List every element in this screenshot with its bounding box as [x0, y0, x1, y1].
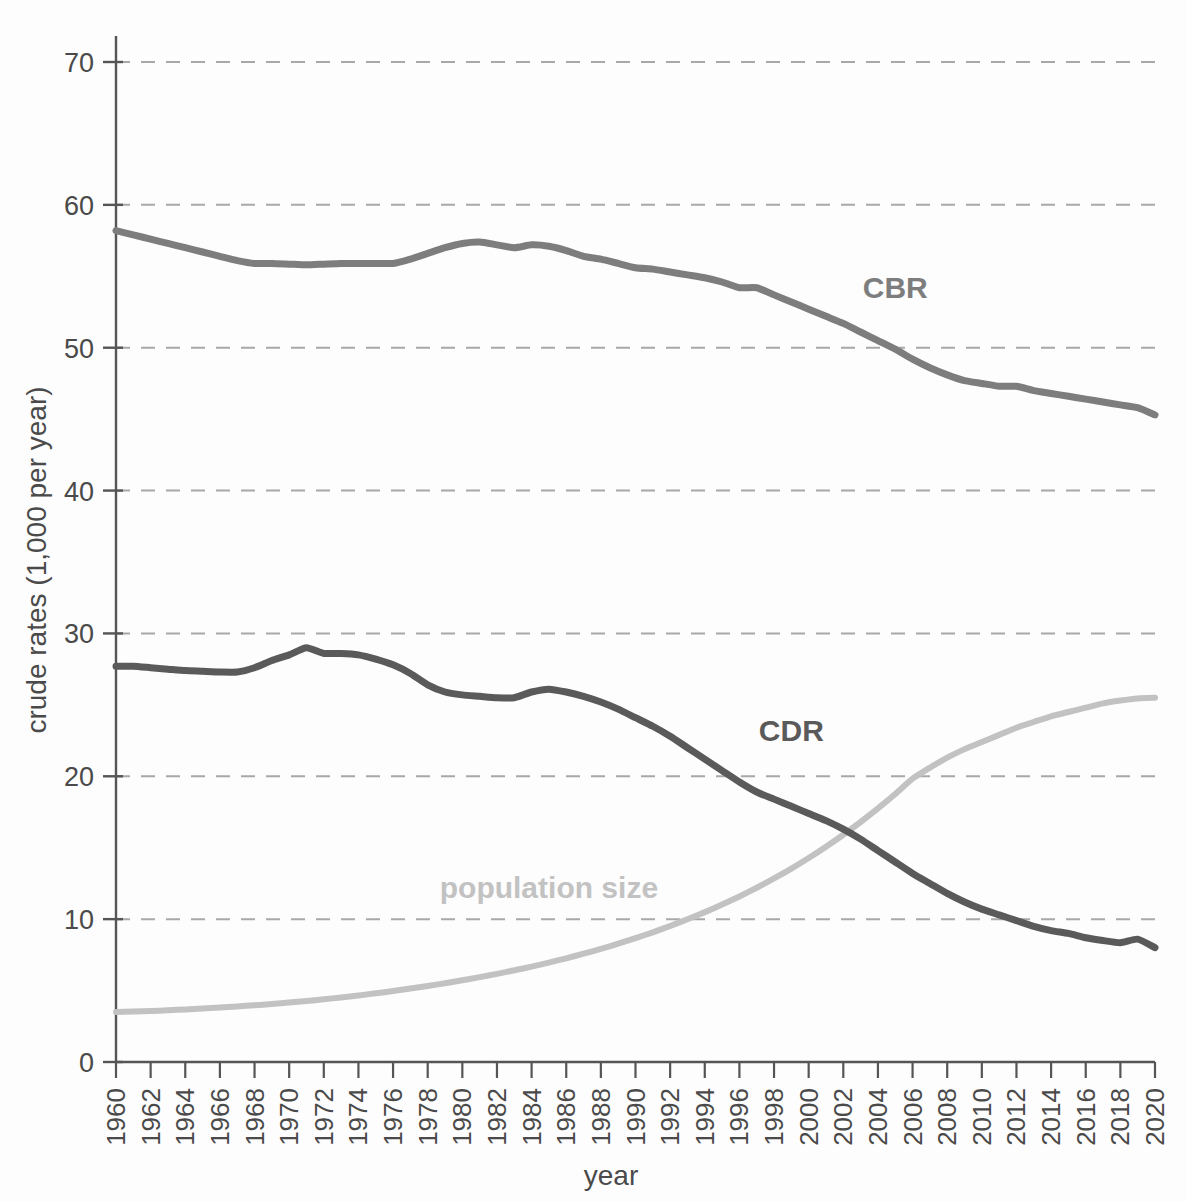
x-tick-label: 2000: [794, 1088, 824, 1146]
x-tick-label: 2018: [1105, 1088, 1135, 1146]
x-tick-label: 2020: [1140, 1088, 1170, 1146]
x-tick-label: 2004: [863, 1088, 893, 1146]
x-tick-label: 2002: [828, 1088, 858, 1146]
x-tick-label: 1984: [517, 1088, 547, 1146]
x-tick-label: 1982: [482, 1088, 512, 1146]
y-tick-label: 30: [64, 619, 94, 649]
x-tick-label: 1992: [655, 1088, 685, 1146]
x-tick-label: 2008: [932, 1088, 962, 1146]
x-tick-label: 1988: [586, 1088, 616, 1146]
x-tick-label: 1978: [413, 1088, 443, 1146]
x-tick-label: 1998: [759, 1088, 789, 1146]
y-tick-label: 0: [79, 1048, 94, 1078]
series-label-cbr: CBR: [863, 271, 928, 304]
y-axis: [103, 36, 123, 1062]
y-axis-title: crude rates (1,000 per year): [21, 386, 52, 733]
x-axis: [116, 1062, 1155, 1078]
x-tick-labels: 1960196219641966196819701972197419761978…: [101, 1088, 1170, 1146]
y-tick-label: 40: [64, 477, 94, 507]
line-chart: 010203040506070 196019621964196619681970…: [0, 0, 1187, 1202]
x-tick-label: 1972: [309, 1088, 339, 1146]
x-tick-label: 1960: [101, 1088, 131, 1146]
series-annotations: CBRCDRpopulation size: [440, 271, 928, 904]
series-label-population-size: population size: [440, 871, 658, 904]
x-tick-label: 1968: [240, 1088, 270, 1146]
x-tick-label: 2014: [1036, 1088, 1066, 1146]
x-tick-label: 1996: [724, 1088, 754, 1146]
y-tick-label: 10: [64, 905, 94, 935]
x-tick-label: 2006: [898, 1088, 928, 1146]
y-tick-label: 20: [64, 762, 94, 792]
y-tick-label: 60: [64, 191, 94, 221]
series-line-cbr: [116, 231, 1155, 415]
x-tick-label: 1974: [343, 1088, 373, 1146]
x-tick-label: 1994: [690, 1088, 720, 1146]
x-tick-label: 2010: [967, 1088, 997, 1146]
x-tick-label: 1976: [378, 1088, 408, 1146]
chart-container: 010203040506070 196019621964196619681970…: [0, 0, 1187, 1202]
grid-lines: [116, 62, 1155, 919]
y-tick-label: 70: [64, 48, 94, 78]
x-tick-label: 1970: [274, 1088, 304, 1146]
x-tick-label: 2012: [1001, 1088, 1031, 1146]
series-label-cdr: CDR: [759, 714, 824, 747]
x-tick-label: 1986: [551, 1088, 581, 1146]
x-tick-label: 1990: [621, 1088, 651, 1146]
y-tick-label: 50: [64, 334, 94, 364]
x-tick-label: 1964: [170, 1088, 200, 1146]
x-tick-label: 1980: [447, 1088, 477, 1146]
x-tick-label: 1962: [136, 1088, 166, 1146]
x-axis-title: year: [584, 1160, 638, 1191]
series-line-population-size: [116, 698, 1155, 1012]
x-tick-label: 1966: [205, 1088, 235, 1146]
x-tick-label: 2016: [1071, 1088, 1101, 1146]
y-tick-labels: 010203040506070: [64, 48, 94, 1078]
